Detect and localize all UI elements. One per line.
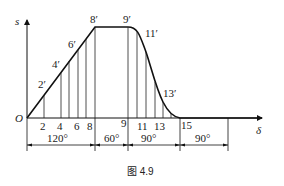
dim-label-rise: 120° xyxy=(47,132,68,144)
cam-displacement-diagram: s δ O 2′ 4′ 6′ 8′ 9′ 11′ 13′ 2 4 6 8 9 1… xyxy=(0,0,284,186)
tick-label-6: 6 xyxy=(74,120,80,132)
tick-label-4: 4 xyxy=(57,120,63,132)
point-label-9p: 9′ xyxy=(123,13,131,25)
point-label-6p: 6′ xyxy=(68,38,76,50)
origin-label: O xyxy=(15,112,23,124)
point-label-2p: 2′ xyxy=(38,78,46,90)
figure-caption: 图 4.9 xyxy=(127,166,154,177)
dim-label-near-dwell: 90° xyxy=(195,132,210,144)
delta-axis-label: δ xyxy=(256,124,262,136)
point-label-4p: 4′ xyxy=(52,58,60,70)
tick-label-9: 9 xyxy=(121,117,127,129)
point-label-13p: 13′ xyxy=(163,87,176,99)
tick-label-15: 15 xyxy=(181,119,193,131)
point-label-11p: 11′ xyxy=(145,27,158,39)
tick-label-11: 11 xyxy=(137,120,148,132)
tick-label-8: 8 xyxy=(87,120,93,132)
dim-label-far-dwell: 60° xyxy=(104,132,119,144)
s-axis-label: s xyxy=(15,15,19,27)
tick-label-13: 13 xyxy=(154,120,166,132)
tick-label-2: 2 xyxy=(40,120,46,132)
dim-label-return: 90° xyxy=(141,132,156,144)
point-label-8p: 8′ xyxy=(90,13,98,25)
displacement-curve xyxy=(27,27,262,118)
